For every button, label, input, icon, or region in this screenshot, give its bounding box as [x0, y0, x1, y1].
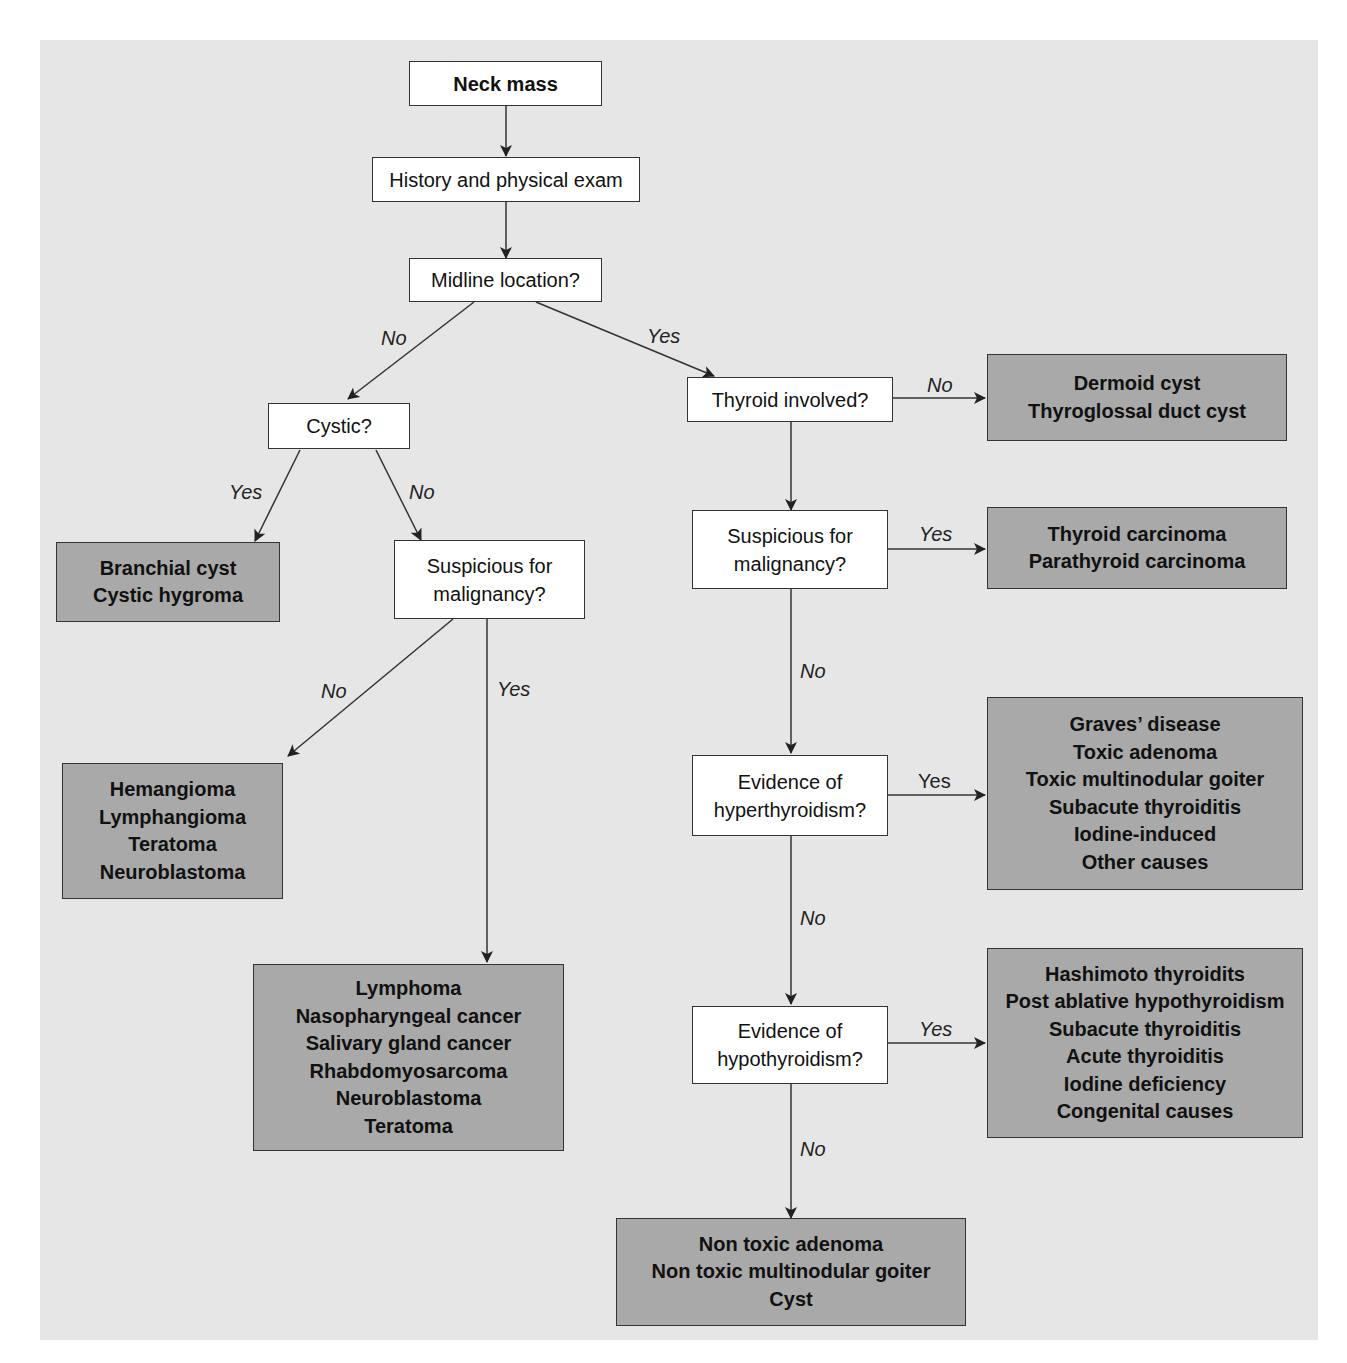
- edge-midline-yes: [536, 302, 714, 376]
- edge-label-thyroid-no: No: [927, 374, 953, 397]
- edge-label-hyper-no: No: [800, 907, 826, 930]
- node-midline-location: Midline location?: [409, 258, 602, 302]
- outcome-dermoid-thyroglossal: Dermoid cyst Thyroglossal duct cyst: [987, 354, 1287, 441]
- outcome-line: Teratoma: [364, 1113, 453, 1141]
- outcome-line: Non toxic adenoma: [699, 1231, 883, 1259]
- outcome-line: Branchial cyst: [100, 555, 237, 583]
- node-susp-left-line-2: malignancy?: [433, 580, 545, 608]
- outcome-line: Subacute thyroiditis: [1049, 794, 1241, 822]
- edge-susp-left-no: [288, 619, 453, 756]
- node-cystic: Cystic?: [268, 403, 410, 449]
- outcome-line: Congenital causes: [1057, 1098, 1234, 1126]
- outcome-lymphoma-group: Lymphoma Nasopharyngeal cancer Salivary …: [253, 964, 564, 1151]
- outcome-line: Iodine deficiency: [1064, 1071, 1226, 1099]
- edge-label-susp-right-yes: Yes: [919, 523, 952, 546]
- node-hypo-line-2: hypothyroidism?: [717, 1045, 863, 1073]
- node-suspicious-malignancy-lateral: Suspicious for malignancy?: [394, 540, 585, 619]
- outcome-line: Post ablative hypothyroidism: [1006, 988, 1285, 1016]
- flowchart-connectors: [0, 0, 1347, 1363]
- outcome-line: Hashimoto thyroidits: [1045, 961, 1245, 989]
- outcome-line: Hemangioma: [110, 776, 236, 804]
- outcome-hemangioma-group: Hemangioma Lymphangioma Teratoma Neurobl…: [62, 763, 283, 899]
- node-history-physical-exam: History and physical exam: [372, 157, 640, 202]
- node-history-text: History and physical exam: [389, 166, 622, 194]
- node-neck-mass: Neck mass: [409, 61, 602, 106]
- edge-label-cystic-no: No: [409, 481, 435, 504]
- outcome-line: Subacute thyroiditis: [1049, 1016, 1241, 1044]
- outcome-line: Neuroblastoma: [336, 1085, 482, 1113]
- outcome-hyperthyroid-causes: Graves’ disease Toxic adenoma Toxic mult…: [987, 697, 1303, 890]
- outcome-line: Thyroid carcinoma: [1048, 521, 1227, 549]
- outcome-line: Nasopharyngeal cancer: [296, 1003, 522, 1031]
- outcome-line: Acute thyroiditis: [1066, 1043, 1224, 1071]
- node-midline-text: Midline location?: [431, 266, 580, 294]
- outcome-line: Dermoid cyst: [1074, 370, 1201, 398]
- edge-label-susp-left-no: No: [321, 680, 347, 703]
- outcome-line: Salivary gland cancer: [306, 1030, 512, 1058]
- outcome-line: Thyroglossal duct cyst: [1028, 398, 1246, 426]
- edge-label-hypo-yes: Yes: [919, 1018, 952, 1041]
- node-evidence-hyperthyroidism: Evidence of hyperthyroidism?: [692, 755, 888, 836]
- outcome-line: Non toxic multinodular goiter: [652, 1258, 931, 1286]
- outcome-line: Parathyroid carcinoma: [1029, 548, 1246, 576]
- node-evidence-hypothyroidism: Evidence of hypothyroidism?: [692, 1006, 888, 1084]
- outcome-thyroid-parathyroid-carcinoma: Thyroid carcinoma Parathyroid carcinoma: [987, 507, 1287, 589]
- outcome-non-toxic-group: Non toxic adenoma Non toxic multinodular…: [616, 1218, 966, 1326]
- outcome-line: Iodine-induced: [1074, 821, 1216, 849]
- node-thyroid-involved: Thyroid involved?: [687, 377, 893, 422]
- outcome-line: Toxic multinodular goiter: [1026, 766, 1265, 794]
- node-susp-right-line-2: malignancy?: [734, 550, 846, 578]
- outcome-line: Other causes: [1082, 849, 1209, 877]
- edge-label-cystic-yes: Yes: [229, 481, 262, 504]
- outcome-line: Graves’ disease: [1069, 711, 1220, 739]
- edge-label-hypo-no: No: [800, 1138, 826, 1161]
- edge-label-susp-left-yes: Yes: [497, 678, 530, 701]
- edge-label-midline-no: No: [381, 327, 407, 350]
- node-susp-left-line-1: Suspicious for: [427, 552, 553, 580]
- outcome-line: Lymphangioma: [99, 804, 246, 832]
- outcome-line: Toxic adenoma: [1073, 739, 1217, 767]
- outcome-line: Neuroblastoma: [100, 859, 246, 887]
- node-neck-mass-text: Neck mass: [453, 70, 558, 98]
- outcome-branchial-cystic-hygroma: Branchial cyst Cystic hygroma: [56, 542, 280, 622]
- outcome-line: Cystic hygroma: [93, 582, 243, 610]
- outcome-line: Rhabdomyosarcoma: [310, 1058, 508, 1086]
- edge-label-hyper-yes: Yes: [918, 770, 951, 793]
- outcome-line: Lymphoma: [356, 975, 462, 1003]
- edge-midline-no: [348, 302, 474, 399]
- node-hypo-line-1: Evidence of: [738, 1017, 843, 1045]
- edge-label-midline-yes: Yes: [647, 325, 680, 348]
- node-hyper-line-2: hyperthyroidism?: [714, 796, 866, 824]
- node-susp-right-line-1: Suspicious for: [727, 522, 853, 550]
- node-suspicious-malignancy-thyroid: Suspicious for malignancy?: [692, 510, 888, 589]
- outcome-line: Teratoma: [128, 831, 217, 859]
- node-hyper-line-1: Evidence of: [738, 768, 843, 796]
- outcome-hypothyroid-causes: Hashimoto thyroidits Post ablative hypot…: [987, 948, 1303, 1138]
- node-thyroid-involved-text: Thyroid involved?: [712, 386, 869, 414]
- edge-label-susp-right-no: No: [800, 660, 826, 683]
- node-cystic-text: Cystic?: [306, 412, 372, 440]
- outcome-line: Cyst: [769, 1286, 812, 1314]
